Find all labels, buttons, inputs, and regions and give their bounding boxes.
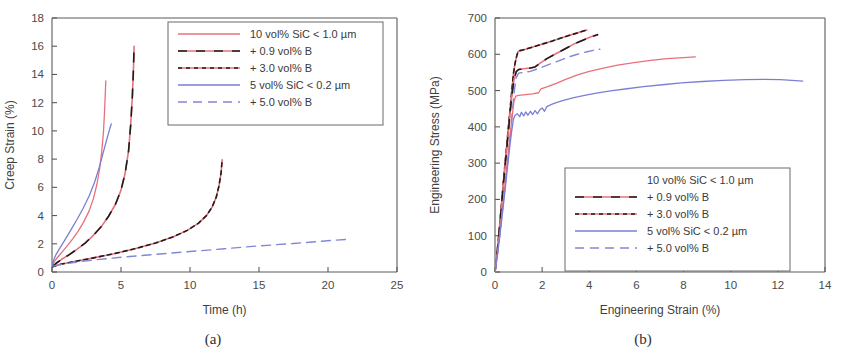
x-tick-label: 20 [322,279,335,291]
legend-label: + 3.0 vol% B [250,62,312,74]
legend-label: + 3.0 vol% B [647,208,709,220]
x-tick-label: 25 [391,279,404,291]
y-axis-title: Creep Strain (%) [3,100,17,189]
y-tick-label: 10 [31,125,44,137]
panel-caption: (a) [205,331,222,348]
y-tick-label: 4 [38,210,45,222]
y-tick-label: 200 [468,193,487,205]
legend-label: 10 vol% SiC < 1.0 µm [250,28,356,40]
data-curve [53,160,222,267]
data-curve [53,239,349,266]
legend-label: + 5.0 vol% B [647,242,709,254]
x-tick-label: 4 [586,279,593,291]
data-curve [52,46,134,266]
y-tick-label: 2 [38,238,44,250]
x-axis-title: Time (h) [202,303,246,317]
x-tick-label: 0 [492,279,498,291]
y-tick-label: 400 [468,121,487,133]
y-tick-label: 700 [468,12,487,24]
x-tick-label: 15 [253,279,266,291]
legend-label: + 0.9 vol% B [250,45,312,57]
panel-caption: (b) [634,331,652,348]
figure-container: 0246810121416180510152025Time (h)Creep S… [0,0,849,353]
chart-panel-creep: 0246810121416180510152025Time (h)Creep S… [0,0,424,353]
x-tick-label: 10 [724,279,737,291]
x-tick-label: 5 [118,279,124,291]
x-tick-label: 8 [680,279,686,291]
x-tick-label: 6 [633,279,639,291]
data-curve [52,46,134,266]
x-tick-label: 10 [184,279,197,291]
y-tick-label: 18 [31,12,44,24]
creep-chart-svg: 0246810121416180510152025Time (h)Creep S… [0,0,424,353]
x-tick-label: 14 [819,279,832,291]
chart-panel-tensile: 010020030040050060070002468101214Enginee… [425,0,849,353]
y-tick-label: 300 [468,157,487,169]
x-axis-title: Engineering Strain (%) [600,303,721,317]
y-tick-label: 0 [481,266,487,278]
y-tick-label: 12 [31,97,44,109]
legend-label: 5 vol% SiC < 0.2 µm [647,225,747,237]
y-tick-label: 500 [468,85,487,97]
x-tick-label: 2 [539,279,545,291]
y-tick-label: 0 [38,266,44,278]
y-axis-title: Engineering Stress (MPa) [428,76,442,213]
y-tick-label: 6 [38,181,44,193]
y-tick-label: 8 [38,153,44,165]
x-tick-label: 12 [771,279,784,291]
legend-label: + 0.9 vol% B [647,191,709,203]
legend-label: 10 vol% SiC < 1.0 µm [647,174,753,186]
y-tick-label: 100 [468,230,487,242]
y-tick-label: 16 [31,40,44,52]
legend-label: 5 vol% SiC < 0.2 µm [250,79,350,91]
x-tick-label: 0 [49,279,55,291]
data-curve [53,160,222,267]
legend-label: + 5.0 vol% B [250,96,312,108]
y-tick-label: 600 [468,48,487,60]
tensile-chart-svg: 010020030040050060070002468101214Enginee… [425,0,849,353]
y-tick-label: 14 [31,68,44,80]
